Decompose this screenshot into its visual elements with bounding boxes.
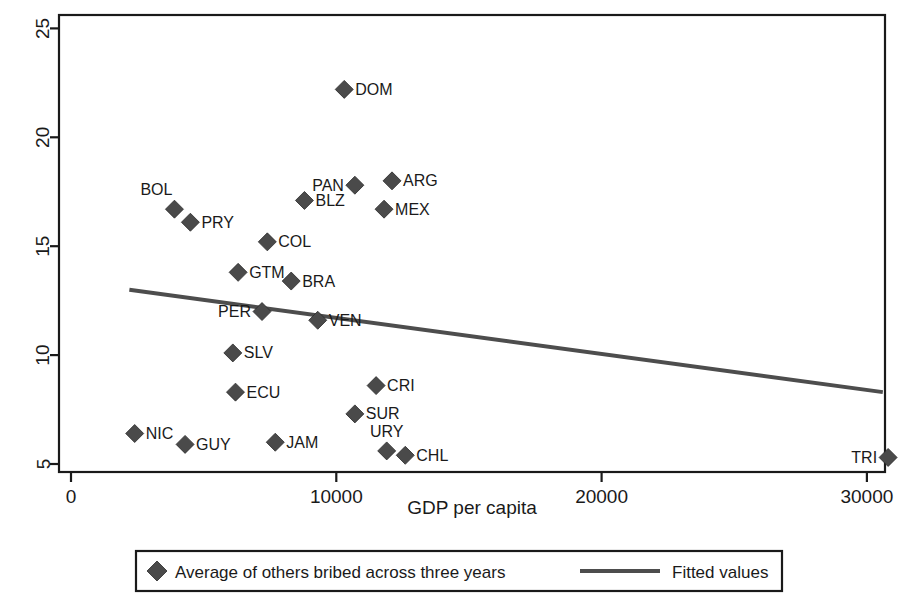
diamond-marker-icon <box>224 344 242 362</box>
diamond-marker-icon <box>346 176 364 194</box>
data-point-label: SLV <box>244 344 273 361</box>
chart-legend: Average of others bribed across three ye… <box>136 551 782 591</box>
plot-frame <box>59 15 885 472</box>
data-point: NIC <box>126 425 174 443</box>
data-point-label: SUR <box>366 405 400 422</box>
data-point: JAM <box>266 433 318 451</box>
x-axis-ticks <box>71 472 867 482</box>
diamond-marker-icon <box>165 200 183 218</box>
diamond-marker-icon <box>229 263 247 281</box>
data-point: GTM <box>229 263 285 281</box>
x-axis-tick-label: 30000 <box>840 486 893 507</box>
diamond-marker-icon <box>375 200 393 218</box>
data-point: CHL <box>396 446 448 464</box>
x-axis-title: GDP per capita <box>407 497 537 518</box>
data-point: PRY <box>181 213 234 231</box>
data-point-label: ECU <box>246 384 280 401</box>
data-point: GUY <box>176 435 231 453</box>
y-axis-tick-label: 10 <box>33 345 54 366</box>
data-point-label: PER <box>218 303 251 320</box>
data-point: COL <box>258 233 311 251</box>
diamond-marker-icon <box>396 446 414 464</box>
data-point-label: COL <box>278 233 311 250</box>
diamond-marker-icon <box>126 425 144 443</box>
y-axis-tick-label: 20 <box>33 127 54 148</box>
data-point: ARG <box>383 172 438 190</box>
data-point: BRA <box>282 272 335 290</box>
data-point: PER <box>218 303 271 321</box>
data-point-label: VEN <box>329 312 362 329</box>
x-axis-tick-label: 20000 <box>575 486 628 507</box>
data-point-label: BRA <box>302 273 335 290</box>
data-point: SLV <box>224 344 273 362</box>
chart-figure: 510152025 0100002000030000 DOMARGPANBLZB… <box>0 0 909 609</box>
legend-label-scatter: Average of others bribed across three ye… <box>175 563 505 582</box>
diamond-marker-icon <box>346 405 364 423</box>
data-point: VEN <box>309 311 362 329</box>
data-point: CRI <box>367 377 415 395</box>
data-point: TRI <box>851 448 897 466</box>
data-point-label: URY <box>370 423 404 440</box>
diamond-marker-icon <box>378 442 396 460</box>
data-points-group: DOMARGPANBLZBOLMEXPRYCOLGTMBRAPERVENSLVC… <box>126 80 897 466</box>
diamond-marker-icon <box>335 80 353 98</box>
y-axis-tick-label: 15 <box>33 236 54 257</box>
scatter-plot-svg: 510152025 0100002000030000 DOMARGPANBLZB… <box>0 0 909 609</box>
x-axis-tick-label: 10000 <box>310 486 363 507</box>
diamond-marker-icon <box>258 233 276 251</box>
data-point-label: CRI <box>387 377 415 394</box>
data-point-label: MEX <box>395 201 430 218</box>
data-point: DOM <box>335 80 392 98</box>
diamond-marker-icon <box>266 433 284 451</box>
y-axis-tick-label: 25 <box>33 18 54 39</box>
diamond-marker-icon <box>176 435 194 453</box>
x-axis-tick-label: 0 <box>66 486 77 507</box>
data-point-label: BLZ <box>315 192 345 209</box>
data-point-label: DOM <box>355 81 392 98</box>
data-point-label: JAM <box>286 434 318 451</box>
diamond-marker-icon <box>181 213 199 231</box>
diamond-marker-icon <box>226 383 244 401</box>
data-point-label: BOL <box>140 181 172 198</box>
data-point-label: GUY <box>196 436 231 453</box>
diamond-marker-icon <box>295 191 313 209</box>
data-point-label: NIC <box>146 425 174 442</box>
legend-label-fitted: Fitted values <box>672 563 768 582</box>
data-point: ECU <box>226 383 280 401</box>
diamond-marker-icon <box>282 272 300 290</box>
data-point-label: PRY <box>201 214 234 231</box>
data-point: BOL <box>140 181 183 218</box>
y-axis-tick-labels: 510152025 <box>33 18 54 469</box>
data-point: SUR <box>346 405 400 423</box>
data-point-label: CHL <box>416 447 448 464</box>
diamond-marker-icon <box>879 448 897 466</box>
data-point-label: ARG <box>403 172 438 189</box>
legend-diamond-icon <box>147 561 167 581</box>
diamond-marker-icon <box>383 172 401 190</box>
data-point: BLZ <box>295 191 345 209</box>
y-axis-tick-label: 5 <box>33 459 54 470</box>
data-point: MEX <box>375 200 430 218</box>
diamond-marker-icon <box>367 377 385 395</box>
data-point-label: GTM <box>249 264 285 281</box>
data-point-label: TRI <box>851 449 877 466</box>
